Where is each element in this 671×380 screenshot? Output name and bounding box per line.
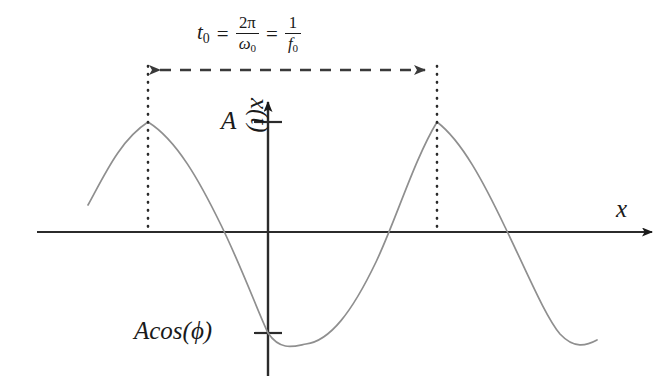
waveform-canvas xyxy=(0,0,671,380)
formula-fraction-freq: 1 f0 xyxy=(285,14,301,55)
fraction-denominator: f0 xyxy=(285,33,301,55)
phase-offset-label: Acos(ϕ) xyxy=(134,318,212,343)
y-axis-label: x(t) xyxy=(247,98,272,133)
fraction-numerator: 2π xyxy=(236,14,259,33)
formula-equals-2: = xyxy=(266,24,278,45)
cosine-curve xyxy=(88,122,597,346)
amplitude-label: A xyxy=(221,108,236,133)
formula-equals-1: = xyxy=(217,24,229,45)
x-axis-label: x xyxy=(616,196,627,221)
period-formula: t0 = 2π ω0 = 1 f0 xyxy=(197,14,301,55)
waveform-figure: t0 = 2π ω0 = 1 f0 A x(t) x Acos(ϕ) xyxy=(0,0,671,380)
formula-lhs: t0 xyxy=(197,22,210,46)
formula-fraction-omega: 2π ω0 xyxy=(236,14,259,55)
fraction-denominator: ω0 xyxy=(236,33,259,55)
fraction-numerator: 1 xyxy=(286,14,300,33)
